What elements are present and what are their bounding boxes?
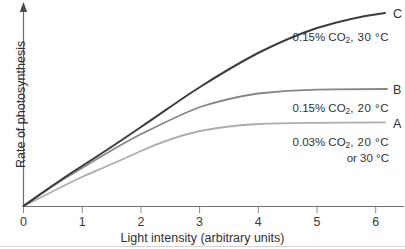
x-tick-label-2: 2 — [129, 216, 153, 229]
series-letter-b: B — [393, 84, 401, 97]
series-note-b: 0.15% CO2, 20 °C — [293, 101, 389, 117]
photosynthesis-light-response-chart: 0 1 2 3 4 5 6 Light intensity (arbitrary… — [0, 0, 405, 249]
series-note-c-suffix: , 30 °C — [350, 31, 389, 43]
series-note-c: 0.15% CO2, 30 °C — [293, 30, 389, 46]
series-note-a-suffix: , 20 °C — [350, 136, 389, 148]
x-tick-label-0: 0 — [12, 216, 36, 229]
series-note-b-prefix: 0.15% CO — [293, 102, 346, 114]
series-note-a-prefix: 0.03% CO — [293, 136, 346, 148]
series-note-a-line2: or 30 °C — [293, 151, 389, 165]
x-tick-label-1: 1 — [70, 216, 94, 229]
x-tick-label-4: 4 — [246, 216, 270, 229]
series-note-b-suffix: , 20 °C — [350, 102, 389, 114]
y-axis-title: Rate of photosynthesis — [15, 41, 28, 168]
x-axis-title: Light intensity (arbitrary units) — [0, 232, 405, 245]
x-tick-label-6: 6 — [364, 216, 388, 229]
series-letter-c: C — [393, 8, 402, 21]
series-letter-a: A — [393, 118, 401, 131]
y-axis-arrow-icon — [20, 2, 27, 12]
series-note-c-prefix: 0.15% CO — [293, 31, 346, 43]
x-tick-label-5: 5 — [305, 216, 329, 229]
series-note-a: 0.03% CO2, 20 °C or 30 °C — [293, 135, 389, 166]
x-tick-label-3: 3 — [188, 216, 212, 229]
